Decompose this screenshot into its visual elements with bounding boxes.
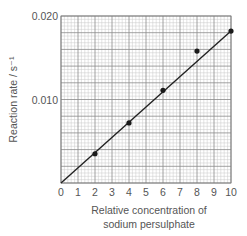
x-tick-label: 0 bbox=[58, 186, 64, 198]
x-tick-label: 9 bbox=[211, 186, 217, 198]
y-tick-label: 0.010 bbox=[32, 94, 58, 106]
x-axis-title-line-2: sodium persulphate bbox=[103, 218, 195, 230]
x-tick-label: 4 bbox=[126, 186, 132, 198]
x-tick-label: 10 bbox=[225, 186, 237, 198]
x-tick-label: 8 bbox=[194, 186, 200, 198]
x-tick-label: 5 bbox=[143, 186, 149, 198]
data-point bbox=[126, 120, 131, 125]
x-tick-label: 1 bbox=[75, 186, 81, 198]
data-point bbox=[228, 28, 233, 33]
data-point bbox=[194, 48, 199, 53]
grid-major-lines bbox=[61, 16, 231, 183]
data-point bbox=[92, 151, 97, 156]
y-axis-title: Reaction rate / s⁻¹ bbox=[7, 56, 19, 142]
x-axis-tick-labels: 012345678910 bbox=[58, 186, 237, 198]
x-tick-label: 2 bbox=[92, 186, 98, 198]
data-point bbox=[160, 88, 165, 93]
x-tick-label: 6 bbox=[160, 186, 166, 198]
y-axis-tick-labels: 0.0100.020 bbox=[32, 10, 58, 106]
y-tick-label: 0.020 bbox=[32, 10, 58, 22]
x-tick-label: 7 bbox=[177, 186, 183, 198]
chart: 012345678910 0.0100.020 Reaction rate / … bbox=[0, 0, 247, 236]
x-tick-label: 3 bbox=[109, 186, 115, 198]
x-axis-title-line-1: Relative concentration of bbox=[91, 204, 207, 216]
